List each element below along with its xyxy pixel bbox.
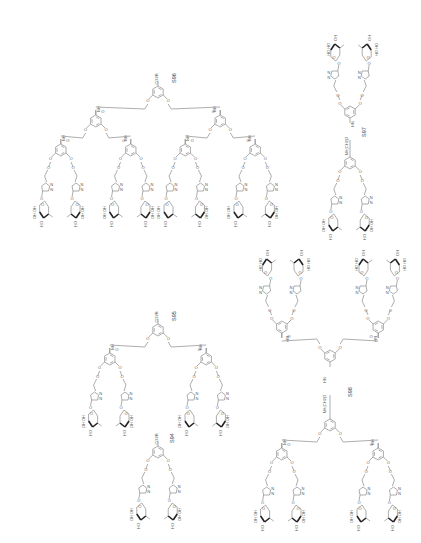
glycoside-oxygen: O <box>110 196 113 201</box>
triazole-nitrogen: N <box>275 187 278 192</box>
triazole-nitrogen: N <box>368 491 371 496</box>
sugar-unit: OOHOHHO <box>177 410 198 436</box>
bond <box>212 423 216 426</box>
sugar-unit: OOHOHHO <box>32 201 53 227</box>
ether-oxygen: O <box>318 431 321 436</box>
triazole-arm: ONNOOOHOHHO <box>156 165 178 228</box>
amide-nh: HN <box>322 377 327 383</box>
ether-oxygen: O <box>268 469 271 474</box>
ring-oxygen: O <box>221 411 224 416</box>
linker-label: NH(CH2)3 <box>344 136 349 155</box>
hydroxyl-label: OH <box>374 50 379 56</box>
triazole-nitrogen: N <box>99 396 102 401</box>
triazole-nitrogen: N <box>120 187 123 192</box>
amide-nh: NH <box>185 135 190 141</box>
sugar-unit: OOHOHHO <box>102 201 123 227</box>
bond <box>296 295 298 301</box>
triazole-ring <box>42 183 50 191</box>
triazole-ring <box>331 196 339 204</box>
bond <box>169 201 173 207</box>
bond <box>123 379 126 385</box>
bond <box>270 518 274 521</box>
triazole-nitrogen: N <box>196 396 199 401</box>
bond <box>282 450 285 452</box>
ether-oxygen: O <box>119 156 122 161</box>
ring-oxygen: O <box>111 202 114 207</box>
bond <box>327 358 330 360</box>
bond <box>390 270 394 276</box>
ether-oxygen: O <box>338 169 341 174</box>
sugar-unit: OOHOHHO <box>261 201 279 227</box>
wedge-bond <box>261 516 265 522</box>
carbonyl-oxygen: O <box>287 334 290 339</box>
ring-oxygen: O <box>395 270 398 275</box>
bond <box>392 295 394 301</box>
triazole-arm: ONNOOOHOHHO <box>289 250 311 313</box>
bond <box>243 214 247 217</box>
ring-oxygen: O <box>296 506 299 511</box>
wedge-bond <box>357 516 361 522</box>
glycoside-oxygen: O <box>216 405 219 410</box>
triazole-nitrogen: N <box>147 489 150 494</box>
bond <box>158 448 161 450</box>
ether-oxygen: O <box>359 101 362 106</box>
bond <box>119 214 123 217</box>
bond <box>356 227 360 230</box>
ether-oxygen: O <box>336 93 339 98</box>
triazole-arm: ONNOOOHOHHO <box>261 165 279 228</box>
ring-oxygen: O <box>124 411 127 416</box>
bond <box>144 170 147 176</box>
bond <box>221 117 224 119</box>
ether-oxygen: O <box>173 156 176 161</box>
compound-s95: CO2RS95OONHOOOONNOOOHOHHOONNOOOHOHHONHOO… <box>81 311 231 436</box>
bond <box>340 339 343 344</box>
hydroxyl-label: OH <box>306 258 311 264</box>
triazole-arm: ONNOOOHOHHO <box>212 374 230 437</box>
bond <box>246 153 250 157</box>
bond <box>131 152 134 154</box>
bond <box>290 260 294 263</box>
ether-oxygen: O <box>146 458 149 463</box>
ring-oxygen: O <box>367 55 370 60</box>
sugar-unit: OOHOHHO <box>164 503 182 529</box>
bond <box>334 183 337 189</box>
bond <box>266 295 268 301</box>
ether-oxygen: O <box>215 365 218 370</box>
glycoside-oxygen: O <box>265 196 268 201</box>
bond <box>350 159 353 161</box>
chemical-structures-figure: CO2RS96OONHOOONHOOOONNOOOHOHHOONNOOOHOHH… <box>0 0 421 543</box>
wedge-bond <box>294 259 299 263</box>
glycoside-oxygen: O <box>234 196 237 201</box>
bond <box>383 320 387 324</box>
bond <box>362 480 364 486</box>
bond <box>255 152 258 154</box>
bond <box>362 474 365 480</box>
triazole-nitrogen: N <box>271 491 274 496</box>
bond <box>360 214 364 220</box>
ether-oxygen: O <box>194 156 197 161</box>
wedge-bond <box>110 212 114 218</box>
bond <box>255 146 258 148</box>
bond <box>364 80 366 86</box>
bond <box>268 270 272 276</box>
wedge-bond <box>292 518 297 522</box>
wedge-bond <box>367 44 371 50</box>
ether-oxygen: O <box>270 316 273 321</box>
bond <box>292 505 296 511</box>
glycoside-oxygen: O <box>360 209 363 214</box>
compound-label: S97 <box>361 127 367 137</box>
wedge-bond <box>120 423 125 427</box>
ether-oxygen: O <box>96 374 99 379</box>
hydroxyl-label: HO <box>163 221 168 227</box>
ether-oxygen: O <box>387 460 390 465</box>
triazole-arm: ONNOOOHOHHO <box>253 469 275 532</box>
wedge-bond <box>390 259 395 263</box>
wedge-bond <box>265 518 270 522</box>
ether-oxygen: O <box>167 98 170 103</box>
ether-oxygen: O <box>339 345 342 350</box>
triazole-arm: ONNOOOHOHHO <box>384 469 402 532</box>
bond <box>266 474 269 480</box>
glycoside-oxygen: O <box>337 61 340 66</box>
wedge-bond <box>44 214 49 218</box>
ether-oxygen: O <box>47 165 50 170</box>
